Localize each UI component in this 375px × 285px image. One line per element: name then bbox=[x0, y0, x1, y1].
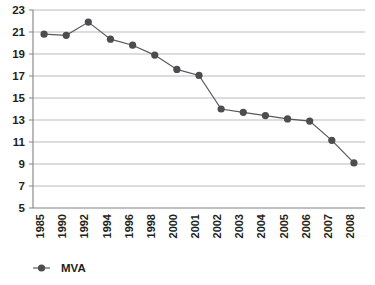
y-tick-label-17: 17 bbox=[12, 70, 25, 82]
x-tick-label-2007: 2007 bbox=[322, 214, 334, 238]
x-tick-label-1996: 1996 bbox=[123, 214, 135, 238]
y-tick-label-15: 15 bbox=[12, 92, 25, 104]
data-point-2007[interactable] bbox=[328, 137, 335, 144]
line-chart: 57911131517192123 1985199019921994199619… bbox=[0, 0, 375, 285]
data-point-2001[interactable] bbox=[195, 72, 202, 79]
x-tick-label-1994: 1994 bbox=[101, 213, 113, 238]
data-point-2002[interactable] bbox=[218, 105, 225, 112]
data-point-2004[interactable] bbox=[262, 112, 269, 119]
y-tick-label-23: 23 bbox=[12, 4, 25, 16]
x-axis: 1985199019921994199619982000200120022003… bbox=[34, 213, 356, 238]
x-tick-label-2005: 2005 bbox=[278, 214, 290, 238]
data-point-1992[interactable] bbox=[85, 19, 92, 26]
data-point-2005[interactable] bbox=[284, 115, 291, 122]
plot-area-background bbox=[33, 10, 365, 208]
data-point-2006[interactable] bbox=[306, 118, 313, 125]
x-tick-label-2004: 2004 bbox=[255, 213, 267, 238]
x-tick-label-2003: 2003 bbox=[233, 214, 245, 238]
y-tick-label-21: 21 bbox=[12, 26, 25, 38]
x-tick-label-1990: 1990 bbox=[56, 214, 68, 238]
data-point-2008[interactable] bbox=[350, 159, 357, 166]
data-point-1990[interactable] bbox=[63, 32, 70, 39]
x-tick-label-2006: 2006 bbox=[300, 214, 312, 238]
y-tick-label-19: 19 bbox=[12, 48, 25, 60]
x-tick-label-1998: 1998 bbox=[145, 214, 157, 238]
x-tick-label-2000: 2000 bbox=[167, 214, 179, 238]
y-tick-label-13: 13 bbox=[12, 114, 25, 126]
y-tick-label-11: 11 bbox=[13, 136, 26, 148]
y-tick-label-7: 7 bbox=[19, 180, 25, 192]
chart-legend: MVA bbox=[33, 262, 86, 274]
data-point-2003[interactable] bbox=[240, 109, 247, 116]
data-point-1996[interactable] bbox=[129, 42, 136, 49]
data-point-1985[interactable] bbox=[40, 31, 47, 38]
x-tick-label-2002: 2002 bbox=[211, 214, 223, 238]
y-tick-label-5: 5 bbox=[19, 202, 26, 214]
x-tick-label-1985: 1985 bbox=[34, 214, 46, 238]
y-tick-label-9: 9 bbox=[19, 158, 25, 170]
x-tick-label-2008: 2008 bbox=[344, 214, 356, 238]
chart-canvas: 57911131517192123 1985199019921994199619… bbox=[0, 0, 375, 285]
x-tick-label-1992: 1992 bbox=[78, 214, 90, 238]
x-tick-label-2001: 2001 bbox=[189, 214, 201, 238]
data-point-2000[interactable] bbox=[173, 66, 180, 73]
legend-marker-dot-mva bbox=[38, 264, 45, 271]
data-point-1994[interactable] bbox=[107, 36, 114, 43]
data-point-1998[interactable] bbox=[151, 52, 158, 59]
legend-label-mva: MVA bbox=[61, 262, 86, 274]
